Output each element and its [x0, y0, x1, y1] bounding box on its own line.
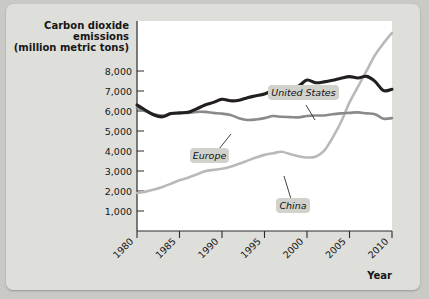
- y-tick-label-1000: 1,000: [105, 206, 132, 217]
- y-tick-label-6000: 6,000: [105, 106, 132, 117]
- x-tick-label-1980: 1980: [111, 236, 136, 261]
- figure-card: Carbon dioxide emissions (million metric…: [6, 4, 420, 290]
- series-label-europe: Europe: [193, 150, 227, 161]
- x-tick-label-1990: 1990: [196, 236, 221, 261]
- chart-figure: Carbon dioxide emissions (million metric…: [6, 4, 420, 290]
- x-axis-tick-labels: 1980 1985 1990 1995 2000 2005 2010: [111, 236, 391, 261]
- series-label-united-states: United States: [271, 87, 335, 98]
- series-label-china: China: [279, 200, 306, 211]
- y-axis-title-line-3: (million metric tons): [14, 42, 129, 53]
- co2-emissions-line-chart: Carbon dioxide emissions (million metric…: [6, 4, 420, 290]
- y-tick-label-3000: 3,000: [105, 166, 132, 177]
- y-tick-label-4000: 4,000: [105, 146, 132, 157]
- y-tick-label-5000: 5,000: [105, 126, 132, 137]
- y-tick-label-8000: 8,000: [105, 66, 132, 77]
- x-tick-label-2005: 2005: [323, 236, 348, 261]
- x-tick-label-1985: 1985: [153, 236, 178, 261]
- x-tick-label-1995: 1995: [238, 236, 263, 261]
- x-axis-title: Year: [366, 270, 392, 281]
- x-axis-ticks: [137, 231, 392, 238]
- x-tick-label-2000: 2000: [281, 236, 306, 261]
- y-axis-title-line-2: emissions: [73, 31, 129, 42]
- y-axis-title-line-1: Carbon dioxide: [44, 20, 129, 31]
- plot-area: [137, 21, 392, 231]
- y-tick-label-7000: 7,000: [105, 86, 132, 97]
- y-tick-label-2000: 2,000: [105, 186, 132, 197]
- x-tick-label-2010: 2010: [366, 236, 391, 261]
